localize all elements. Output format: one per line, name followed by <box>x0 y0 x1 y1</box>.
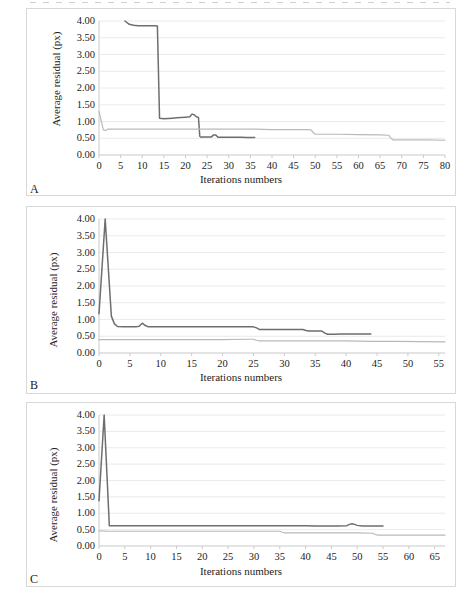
x-tick-label: 45 <box>364 358 390 369</box>
panel-c: Average residual (px) Iterations numbers… <box>26 402 456 587</box>
x-tick-label: 55 <box>370 551 396 562</box>
x-tick-label: 35 <box>267 551 293 562</box>
x-tick-label: 35 <box>302 358 328 369</box>
x-tick-label: 45 <box>318 551 344 562</box>
x-tick-label: 65 <box>422 551 448 562</box>
y-tick-label: 3.00 <box>61 50 95 60</box>
panel-a-x-axis-label: Iterations numbers <box>27 173 455 185</box>
panel-b-x-axis-label: Iterations numbers <box>27 371 455 383</box>
x-tick-label: 25 <box>215 551 241 562</box>
x-tick-label: 30 <box>241 551 267 562</box>
x-tick-label: 15 <box>164 551 190 562</box>
panel-b-plot-area: Average residual (px) Iterations numbers… <box>27 207 455 393</box>
y-tick-label: 3.00 <box>61 443 95 453</box>
y-tick-label: 2.50 <box>61 66 95 76</box>
panel-a-plot-area: Average residual (px) Iterations numbers… <box>27 9 455 195</box>
x-tick-label: 60 <box>396 551 422 562</box>
figure-three-panel-residual-plots: Average residual (px) Iterations numbers… <box>0 0 463 593</box>
panel-b: Average residual (px) Iterations numbers… <box>26 206 456 394</box>
y-tick-label: 3.50 <box>61 231 95 241</box>
x-tick-label: 30 <box>271 358 297 369</box>
y-tick-label: 2.50 <box>61 459 95 469</box>
x-tick-label: 15 <box>179 358 205 369</box>
y-tick-label: 1.50 <box>61 298 95 308</box>
y-tick-label: 0.00 <box>61 348 95 358</box>
x-tick-label: 25 <box>241 358 267 369</box>
panel-a: Average residual (px) Iterations numbers… <box>26 8 456 196</box>
x-tick-label: 55 <box>426 358 452 369</box>
x-tick-label: 20 <box>210 358 236 369</box>
y-tick-label: 1.50 <box>61 100 95 110</box>
y-tick-label: 1.00 <box>61 315 95 325</box>
x-tick-label: 40 <box>333 358 359 369</box>
y-tick-label: 4.00 <box>61 410 95 420</box>
panel-c-letter: C <box>30 572 38 587</box>
y-tick-label: 0.50 <box>61 331 95 341</box>
x-tick-label: 50 <box>344 551 370 562</box>
y-tick-label: 4.00 <box>61 214 95 224</box>
x-tick-label: 5 <box>117 358 143 369</box>
y-tick-label: 0.50 <box>61 133 95 143</box>
y-tick-label: 0.50 <box>61 525 95 535</box>
x-tick-label: 5 <box>112 551 138 562</box>
y-tick-label: 2.00 <box>61 476 95 486</box>
panel-b-letter: B <box>30 378 38 393</box>
x-tick-label: 40 <box>293 551 319 562</box>
panel-b-y-axis-label: Average residual (px) <box>47 230 59 370</box>
panel-c-x-axis-label: Iterations numbers <box>27 565 455 577</box>
y-tick-label: 1.50 <box>61 492 95 502</box>
y-tick-label: 3.00 <box>61 248 95 258</box>
x-tick-label: 80 <box>432 160 458 171</box>
x-tick-label: 10 <box>138 551 164 562</box>
panel-c-plot-area: Average residual (px) Iterations numbers… <box>27 403 455 586</box>
y-tick-label: 0.00 <box>61 150 95 160</box>
x-tick-label: 0 <box>86 358 112 369</box>
y-tick-label: 2.00 <box>61 281 95 291</box>
y-tick-label: 1.00 <box>61 508 95 518</box>
y-tick-label: 0.00 <box>61 541 95 551</box>
y-tick-label: 4.00 <box>61 16 95 26</box>
y-tick-label: 2.00 <box>61 83 95 93</box>
y-tick-label: 1.00 <box>61 117 95 127</box>
panel-a-y-axis-label: Average residual (px) <box>50 9 62 149</box>
x-tick-label: 20 <box>189 551 215 562</box>
x-tick-label: 0 <box>86 551 112 562</box>
x-tick-label: 50 <box>395 358 421 369</box>
x-tick-label: 10 <box>148 358 174 369</box>
panel-a-letter: A <box>30 182 39 197</box>
panel-c-y-axis-label: Average residual (px) <box>47 425 59 565</box>
y-tick-label: 3.50 <box>61 33 95 43</box>
y-tick-label: 3.50 <box>61 426 95 436</box>
y-tick-label: 2.50 <box>61 264 95 274</box>
